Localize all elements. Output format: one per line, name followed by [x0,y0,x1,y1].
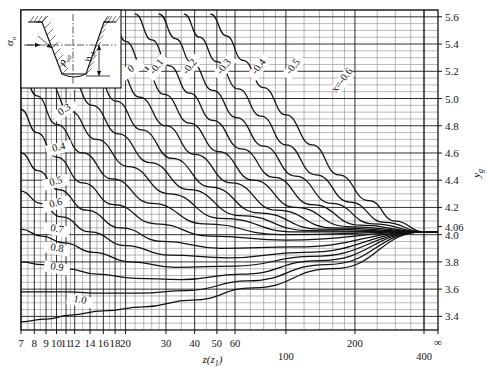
curve-label: 0.7 [50,222,65,235]
y-tick-label: 4.6 [445,147,459,159]
x-tick-label: 14 [85,337,97,349]
x-tick-label: 60 [230,338,241,349]
curve-label: 0.9 [50,260,65,273]
x-tick-label: 9 [43,337,49,349]
curve-label: 1.0 [73,293,88,306]
y-tick-label: 4.8 [445,120,459,132]
x-tick-label: 30 [161,338,172,349]
x-tick-label: 50 [212,338,223,349]
x-tick-label: 12 [69,337,80,349]
curve-label: 0.8 [50,241,65,254]
x-tick-label: 8 [32,337,38,349]
y-tick-label: 5.0 [445,93,459,105]
y-tick-label: 4.2 [445,201,459,213]
x-tick-label: 100 [278,351,294,362]
x-tick-label: 20 [120,337,132,349]
inset-diagram: αnhslρa0 [3,10,121,88]
x-tick-label: 200 [347,338,363,349]
x-tick-label: 16 [98,337,110,349]
x-tick-infinity: ∞ [434,336,442,348]
y-tick-label-special: 4.06 [445,222,463,233]
x-tick-label: 7 [18,337,24,349]
y-tick-label: 3.6 [445,283,459,295]
y-tick-label: 5.4 [445,38,459,50]
x-tick-label: 40 [189,338,200,349]
nomogram-chart: x=-0.6-0.5-0.4-0.3-0.2-0.100.10.20.30.40… [0,0,488,372]
y-tick-label: 4.4 [445,174,459,186]
chart-root: x=-0.6-0.5-0.4-0.3-0.2-0.100.10.20.30.40… [0,0,488,372]
y-tick-label: 5.6 [445,11,459,23]
x-tick-label: 400 [416,351,432,362]
y-tick-label: 3.4 [445,310,459,322]
y-tick-label: 3.8 [445,256,459,268]
y-tick-label: 5.2 [445,65,459,77]
